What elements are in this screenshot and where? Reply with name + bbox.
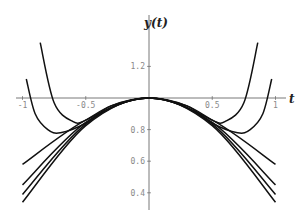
y-tick-label: 0.8	[131, 126, 146, 135]
x-tick-label: 1	[273, 101, 278, 110]
y-tick-label: 0.6	[131, 157, 146, 166]
y-axis-label: y(t)	[143, 16, 168, 30]
chart: -1-0.50.51 1.20.80.60.4 y(t) t	[0, 0, 304, 221]
x-tick-label: -0.5	[76, 101, 95, 110]
x-tick-label: -1	[18, 101, 28, 110]
y-tick-label: 0.4	[131, 189, 146, 198]
x-axis-label: t	[289, 92, 295, 106]
axes: -1-0.50.51 1.20.80.60.4	[16, 15, 286, 210]
x-tick-label: 0.5	[205, 101, 220, 110]
y-ticks: 1.20.80.60.4	[131, 62, 151, 197]
y-tick-label: 1.2	[131, 62, 146, 71]
